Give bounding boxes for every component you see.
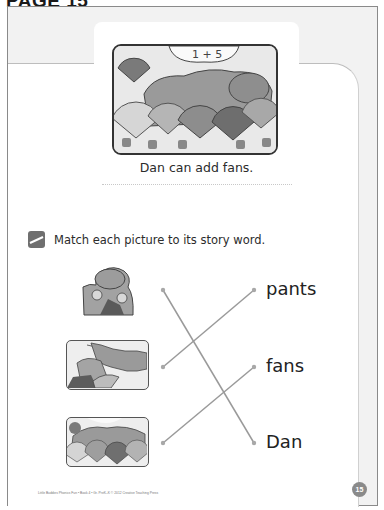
page-number-badge: 15 (352, 482, 367, 497)
picture-dot-2[interactable] (161, 365, 165, 369)
picture-dot-1[interactable] (161, 288, 165, 292)
word-dot-pants[interactable] (252, 288, 256, 292)
match-line-dan (163, 290, 254, 443)
word-pants[interactable]: pants (266, 278, 316, 299)
footer-credit: Little Buddies Phonics Fun • Book 4 • Gr… (38, 491, 158, 495)
word-dot-fans[interactable] (252, 365, 256, 369)
match-line-pants (163, 290, 254, 367)
word-dot-dan[interactable] (252, 441, 256, 445)
word-dan[interactable]: Dan (266, 431, 302, 452)
word-fans[interactable]: fans (266, 355, 304, 376)
picture-dot-3[interactable] (161, 441, 165, 445)
match-lines (0, 0, 384, 510)
match-line-fans (163, 367, 254, 443)
